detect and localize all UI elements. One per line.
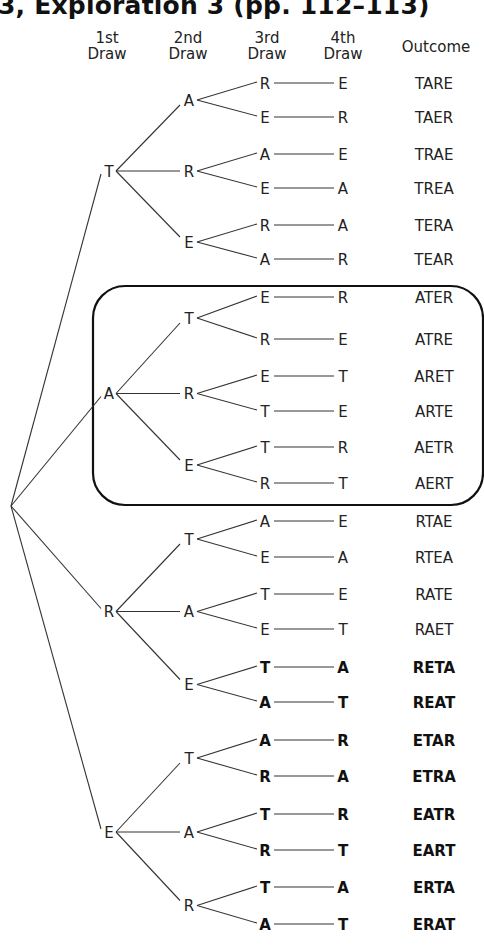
tree-edge [197, 100, 257, 116]
fourth-draw-node: R [338, 289, 348, 307]
fourth-draw-node: E [338, 403, 347, 421]
third-draw-node: T [260, 659, 271, 677]
third-draw-node: R [260, 475, 270, 493]
tree-edge [197, 666, 257, 685]
outcome-label: RTEA [415, 549, 454, 567]
third-draw-node: T [259, 403, 270, 421]
fourth-draw-node: E [338, 146, 347, 164]
second-draw-node: A [184, 92, 195, 110]
outcome-label: ETAR [413, 732, 456, 750]
third-draw-node: T [259, 439, 270, 457]
fourth-draw-node: A [338, 217, 349, 235]
tree-edge [197, 82, 257, 100]
tree-edges [11, 82, 334, 924]
outcome-label: ETRA [412, 768, 456, 786]
second-draw-node: T [183, 750, 194, 768]
second-draw-node: E [184, 234, 193, 252]
outcome-label: RAET [415, 621, 455, 639]
outcome-label: ERTA [413, 879, 455, 897]
second-draw-node: E [184, 676, 193, 694]
tree-edge [116, 105, 180, 171]
tree-edge [197, 593, 257, 612]
outcome-label: RATE [415, 586, 453, 604]
fourth-draw-node: T [338, 916, 349, 934]
fourth-draw-node: T [338, 842, 349, 860]
outcome-label: TREA [413, 180, 454, 198]
outcome-label: EART [413, 842, 457, 860]
third-draw-node: E [260, 621, 269, 639]
second-draw-node: R [184, 385, 194, 403]
fourth-draw-node: E [338, 75, 347, 93]
third-draw-node: A [260, 513, 271, 531]
first-draw-node: A [104, 385, 115, 403]
fourth-draw-node: T [337, 621, 348, 639]
tree-edge [197, 832, 257, 849]
tree-edge [197, 465, 257, 482]
second-draw-node: A [184, 603, 195, 621]
tree-edge [197, 446, 257, 465]
outcome-label: RTAE [415, 513, 452, 531]
outcome-label: TRAE [414, 146, 454, 164]
second-draw-node: A [184, 824, 195, 842]
tree-edge [11, 174, 101, 506]
fourth-draw-node: A [337, 879, 349, 897]
tree-edge [116, 832, 180, 901]
tree-edge [197, 813, 257, 832]
second-draw-node: E [184, 457, 193, 475]
fourth-draw-node: A [337, 659, 349, 677]
fourth-draw-node: T [338, 694, 349, 712]
third-draw-node: E [260, 549, 269, 567]
tree-edge [116, 612, 180, 680]
outcome-label: EATR [413, 806, 456, 824]
tree-edge [11, 506, 101, 829]
outcome-label: ERAT [413, 916, 456, 934]
tree-edge [197, 318, 257, 338]
outcome-label: REAT [413, 694, 456, 712]
tree-edge [197, 375, 257, 394]
fourth-draw-node: R [338, 439, 348, 457]
third-draw-node: A [260, 251, 271, 269]
outcome-label: ATER [415, 289, 453, 307]
second-draw-node: T [183, 531, 194, 549]
fourth-draw-node: E [338, 513, 347, 531]
tree-edge [197, 520, 257, 539]
tree-edge [197, 906, 257, 924]
third-draw-node: T [260, 879, 271, 897]
tree-edge [197, 612, 257, 629]
outcome-label: RETA [413, 659, 456, 677]
fourth-draw-node: E [338, 586, 347, 604]
third-draw-node: A [259, 916, 271, 934]
first-draw-node: T [103, 163, 114, 181]
fourth-draw-node: T [337, 475, 348, 493]
second-draw-node: T [183, 310, 194, 328]
third-draw-node: R [260, 331, 270, 349]
outcome-label: AERT [415, 475, 454, 493]
third-draw-node: E [260, 180, 269, 198]
fourth-draw-node: R [337, 806, 349, 824]
fourth-draw-node: R [338, 251, 348, 269]
fourth-draw-node: R [338, 109, 348, 127]
third-draw-node: T [260, 806, 271, 824]
fourth-draw-node: A [338, 180, 349, 198]
fourth-draw-node: A [337, 768, 349, 786]
tree-edge [197, 758, 257, 775]
fourth-draw-node: T [337, 368, 348, 386]
tree-edge [116, 171, 180, 237]
tree-edge [197, 153, 257, 171]
tree-edge [197, 685, 257, 702]
outcome-label: TAER [414, 109, 453, 127]
third-draw-node: R [259, 842, 271, 860]
third-draw-node: E [260, 368, 269, 386]
tree-edge [11, 506, 101, 609]
tree-edge [116, 323, 180, 394]
third-draw-node: A [259, 694, 271, 712]
tree-edge [116, 394, 180, 461]
outcome-label: ARET [414, 368, 454, 386]
outcome-label: AETR [414, 439, 453, 457]
fourth-draw-node: A [338, 549, 349, 567]
first-draw-node: R [104, 603, 114, 621]
tree-edge [197, 394, 257, 411]
outcome-label: TEAR [413, 251, 453, 269]
third-draw-node: A [260, 146, 271, 164]
tree-edge [197, 296, 257, 318]
